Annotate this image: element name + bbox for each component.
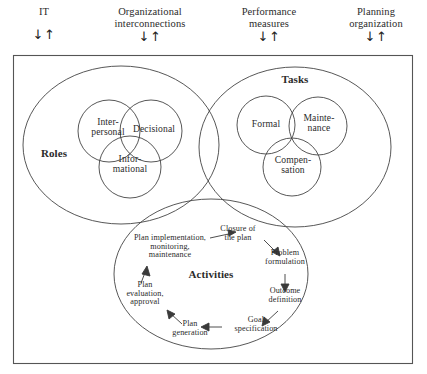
tasks-member-compensation: Compen- sation (265, 155, 321, 175)
venn-diagram-shapes (0, 0, 427, 374)
activities-step-plan-implementation: Plan implementation, monitoring, mainten… (124, 234, 216, 260)
roles-group-label: Roles (24, 148, 84, 160)
activities-group-label: Activities (176, 269, 246, 281)
figure-canvas: IT ↓↑ Organizational interconnections ↓↑… (0, 0, 427, 374)
system-boundary-box (14, 56, 413, 364)
activities-step-plan-generation: Plan generation (161, 320, 219, 337)
activities-step-plan-evaluation-approval: Plan evaluation, approval (114, 281, 176, 307)
activities-step-problem-formulation: Problem formulation (252, 249, 318, 266)
roles-member-informational: Infor- mational (102, 154, 158, 174)
tasks-member-formal: Formal (240, 119, 292, 129)
tasks-group-label: Tasks (265, 74, 325, 86)
roles-member-decisional: Decisional (126, 124, 182, 134)
activities-step-closure-of-the-plan: Closure of the plan (209, 225, 267, 242)
activities-step-goal-specification: Goal specification (223, 316, 289, 333)
roles-ellipse (23, 66, 219, 224)
activities-step-outcome-definition: Outcome definition (253, 287, 317, 304)
tasks-ellipse (199, 67, 391, 227)
tasks-member-maintenance: Mainte- nance (292, 113, 346, 133)
